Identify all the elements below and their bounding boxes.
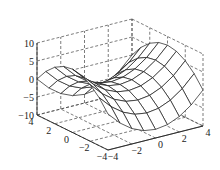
z-tick-label: 5 (29, 56, 34, 67)
right-axis-tick-label: −2 (131, 145, 142, 156)
right-axis-tick-label: −4 (108, 151, 119, 162)
left-axis-tick-label: 2 (46, 125, 51, 136)
surface-plot: −10−50510420−2−4−4−2024 (0, 0, 220, 170)
left-axis-tick-label: 4 (29, 116, 34, 127)
left-axis-tick-label: 0 (64, 134, 69, 145)
left-axis-tick-label: −2 (79, 142, 90, 153)
z-tick-label: 0 (29, 74, 34, 85)
z-tick-label: −5 (23, 92, 34, 103)
saddle-surface-mesh (37, 42, 203, 130)
right-axis-tick-label: 0 (158, 139, 163, 150)
right-axis-tick-label: 2 (182, 133, 187, 144)
right-axis-tick-label: 4 (206, 127, 211, 138)
left-axis-tick-label: −4 (97, 151, 108, 162)
z-tick-label: 10 (24, 38, 34, 49)
